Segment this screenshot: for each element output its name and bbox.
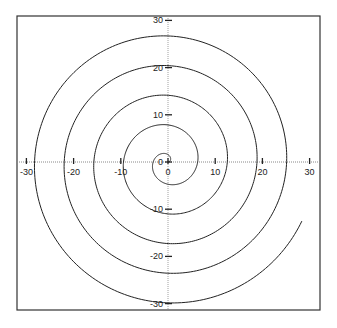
x-tick-label: -30 xyxy=(20,167,33,177)
x-tick-label: 30 xyxy=(305,167,315,177)
x-tick-label: 0 xyxy=(165,167,170,177)
spiral-plot: -30-20-100102030-30-20-101020300 xyxy=(0,0,337,328)
y-tick-label: 10 xyxy=(153,110,163,120)
x-tick-label: -10 xyxy=(114,167,127,177)
y-tick-label: 30 xyxy=(153,15,163,25)
y-tick-label: -20 xyxy=(150,251,163,261)
x-tick-label: 10 xyxy=(210,167,220,177)
y-tick-label: 20 xyxy=(153,63,163,73)
y-tick-label: 0 xyxy=(158,157,163,167)
x-tick-label: -20 xyxy=(67,167,80,177)
x-tick-label: 20 xyxy=(257,167,267,177)
y-tick-label: -30 xyxy=(150,299,163,309)
